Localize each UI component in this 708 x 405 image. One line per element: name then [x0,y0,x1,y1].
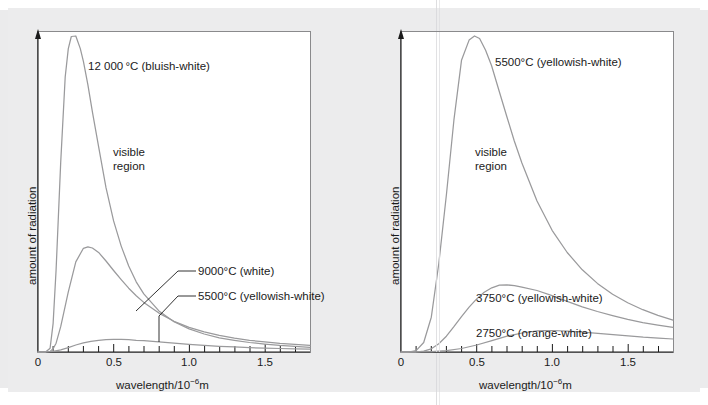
label-9000c-colour: (white) [240,265,275,277]
x-axis-title-exponent: −6 [190,377,199,386]
visible-region-label: visible region [475,146,507,173]
x-axis-title-suffix: m [199,379,209,391]
y-axis-title: amount of radiation [26,187,38,285]
visible-region-label: visible region [113,146,145,173]
curve-5500c [401,36,673,352]
label-12000c-temp: 12 000 [88,60,123,72]
hotter-bodies-panel: 0 0.5 1.0 1.5 wavelength/10−6m amount of… [0,0,354,405]
visible-region-line-2: region [113,160,145,174]
label-2750c-colour: (orange-white) [518,327,592,339]
label-12000c: 12 000°C (bluish-white) [88,60,210,72]
label-3750c-colour: (yellowish-white) [518,292,603,304]
label-2750c-temp: 2750 [476,327,502,339]
xtick-label-2: 1.0 [179,356,199,368]
label-5500c-temp: 5500 [495,56,521,68]
leader-5500c [159,296,196,342]
visible-region-boundary-line-1 [436,32,437,352]
label-3750c: 3750°C (yellowish-white) [476,292,603,304]
xtick-label-0: 0 [28,356,48,368]
label-5500c-unit: °C [224,290,237,302]
label-9000c-temp: 9000 [198,265,224,277]
label-12000c-unit: °C [125,60,138,72]
leader-9000c [136,271,196,311]
x-axis-title-prefix: wavelength/10 [116,379,190,391]
label-3750c-temp: 3750 [476,292,502,304]
x-axis-title-exponent: −6 [553,377,562,386]
xtick-label-3: 1.5 [618,356,638,368]
x-axis-title-prefix: wavelength/10 [479,379,553,391]
label-2750c-unit: °C [502,327,515,339]
label-5500c: 5500°C (yellowish-white) [198,290,325,302]
xtick-label-0: 0 [391,356,411,368]
label-9000c-unit: °C [224,265,237,277]
figure-page: 0 0.5 1.0 1.5 wavelength/10−6m amount of… [0,0,708,405]
curve-12000c [38,36,310,352]
label-5500c: 5500°C (yellowish-white) [495,56,622,68]
x-axis-title: wavelength/10−6m [479,377,572,391]
x-axis-title-suffix: m [562,379,572,391]
label-9000c: 9000°C (white) [198,265,274,277]
xtick-label-3: 1.5 [255,356,275,368]
xtick-label-1: 0.5 [467,356,487,368]
label-5500c-colour: (yellowish-white) [537,56,622,68]
visible-region-boundary-line-2 [439,32,440,352]
x-axis-title: wavelength/10−6m [116,377,209,391]
y-axis-title: amount of radiation [389,187,401,285]
visible-region-line-1: visible [113,146,145,160]
xtick-label-2: 1.0 [542,356,562,368]
label-3750c-unit: °C [502,292,515,304]
visible-region-line-2: region [475,160,507,174]
label-2750c: 2750°C (orange-white) [476,327,592,339]
cooler-bodies-panel: 0 0.5 1.0 1.5 wavelength/10−6m amount of… [354,0,708,405]
label-5500c-colour: (yellowish-white) [240,290,325,302]
x-ticks-right [416,344,658,352]
xtick-label-1: 0.5 [104,356,124,368]
label-5500c-unit: °C [521,56,534,68]
label-5500c-temp: 5500 [198,290,224,302]
label-12000c-colour: (bluish-white) [141,60,209,72]
visible-region-line-1: visible [475,146,507,160]
